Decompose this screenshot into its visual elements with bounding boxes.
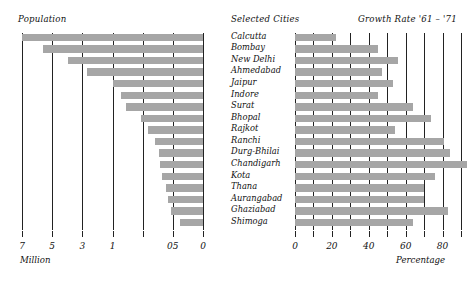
axis-tick-mark xyxy=(406,231,407,237)
city-label: Chandigarh xyxy=(231,159,281,168)
chart-bar xyxy=(43,45,203,52)
chart-bar xyxy=(295,45,378,52)
axis-tick-label: 20 xyxy=(326,241,337,251)
population-axis-ticks xyxy=(22,231,203,237)
axis-tick-mark xyxy=(113,231,114,237)
axis-tick-label: 5 xyxy=(49,241,55,251)
chart-bar xyxy=(295,219,413,226)
city-label: Durg-Bhilai xyxy=(231,147,279,156)
axis-tick-mark xyxy=(173,231,174,237)
axis-tick-label: 40 xyxy=(363,241,374,251)
chart-bar xyxy=(295,161,467,168)
chart-bar xyxy=(166,184,203,191)
axis-tick-mark xyxy=(52,231,53,237)
city-label: Kota xyxy=(231,171,250,180)
chart-bar-row xyxy=(22,207,203,214)
axis-tick-label: 60 xyxy=(400,241,411,251)
axis-tick-mark xyxy=(461,231,462,237)
axis-tick-label: 80 xyxy=(437,241,448,251)
chart-bar-row xyxy=(22,92,203,99)
chart-bar-row xyxy=(295,92,461,99)
axis-tick-mark xyxy=(22,231,23,237)
chart-bar-row xyxy=(295,196,461,203)
chart-bar xyxy=(295,138,444,145)
chart-bar xyxy=(148,126,203,133)
axis-tick-mark xyxy=(143,231,144,237)
chart-bar-row xyxy=(22,103,203,110)
axis-tick-mark xyxy=(443,231,444,237)
city-label: Ranchi xyxy=(231,136,260,145)
cities-column-header: Selected Cities xyxy=(231,14,299,24)
city-label: Surat xyxy=(231,101,254,110)
chart-bar xyxy=(295,207,448,214)
chart-bar-row xyxy=(295,68,461,75)
chart-bar-row xyxy=(22,184,203,191)
chart-bar xyxy=(113,80,204,87)
city-label: Bhopal xyxy=(231,113,260,122)
growth-rate-panel xyxy=(295,33,461,230)
chart-bar xyxy=(159,149,203,156)
chart-bar xyxy=(295,34,336,41)
chart-bar xyxy=(22,34,203,41)
chart-bar-row xyxy=(295,45,461,52)
axis-tick-label: 0 xyxy=(292,241,298,251)
axis-tick-mark xyxy=(387,231,388,237)
chart-bar xyxy=(126,103,203,110)
city-label: Jaipur xyxy=(231,78,257,87)
axis-tick-mark xyxy=(369,231,370,237)
axis-tick-label: 3 xyxy=(79,241,85,251)
chart-bar xyxy=(155,138,203,145)
chart-bar-row xyxy=(295,34,461,41)
chart-bar xyxy=(295,57,398,64)
chart-bar-row xyxy=(295,126,461,133)
axis-tick-mark xyxy=(313,231,314,237)
growth-rate-axis-ticks xyxy=(295,231,461,237)
city-label: Ahmedabad xyxy=(231,66,281,75)
city-label: Thana xyxy=(231,182,257,191)
population-axis-tick-labels: 7531050 xyxy=(0,241,240,255)
chart-bar xyxy=(160,161,203,168)
city-label: Indore xyxy=(231,90,259,99)
chart-bar-row xyxy=(295,80,461,87)
axis-tick-mark xyxy=(424,231,425,237)
chart-figure: Population Selected Cities Growth Rate '… xyxy=(0,0,469,284)
city-label: Rajkot xyxy=(231,124,258,133)
chart-bar-row xyxy=(22,45,203,52)
chart-bar-row xyxy=(22,149,203,156)
city-label: Aurangabad xyxy=(231,194,282,203)
city-label: Shimoga xyxy=(231,217,268,226)
axis-tick-mark xyxy=(332,231,333,237)
chart-bar xyxy=(141,115,203,122)
chart-bar-row xyxy=(22,115,203,122)
chart-bar-row xyxy=(295,219,461,226)
chart-bar xyxy=(68,57,203,64)
chart-bar-row xyxy=(22,138,203,145)
gridline xyxy=(203,33,204,230)
chart-bar-row xyxy=(295,57,461,64)
chart-bar xyxy=(87,68,203,75)
chart-bar xyxy=(295,196,424,203)
chart-bar-row xyxy=(295,161,461,168)
chart-bar-row xyxy=(22,57,203,64)
city-label: Ghaziabad xyxy=(231,205,275,214)
chart-bar xyxy=(295,92,378,99)
chart-bar xyxy=(295,126,395,133)
chart-bar-row xyxy=(22,126,203,133)
chart-bar-row xyxy=(22,173,203,180)
chart-bar xyxy=(295,184,424,191)
chart-bar-row xyxy=(295,138,461,145)
chart-bar xyxy=(295,173,435,180)
population-axis-caption: Million xyxy=(20,255,51,265)
gridline xyxy=(461,33,462,230)
growth-rate-axis-tick-labels: 020406080 xyxy=(280,241,469,255)
chart-bar xyxy=(180,219,203,226)
chart-bar-row xyxy=(295,149,461,156)
chart-bar xyxy=(162,173,203,180)
chart-bar-row xyxy=(22,196,203,203)
axis-tick-mark xyxy=(295,231,296,237)
chart-bar xyxy=(295,149,450,156)
axis-tick-label: 7 xyxy=(19,241,25,251)
chart-bar-row xyxy=(295,184,461,191)
chart-bar xyxy=(295,103,413,110)
population-panel xyxy=(22,33,203,230)
